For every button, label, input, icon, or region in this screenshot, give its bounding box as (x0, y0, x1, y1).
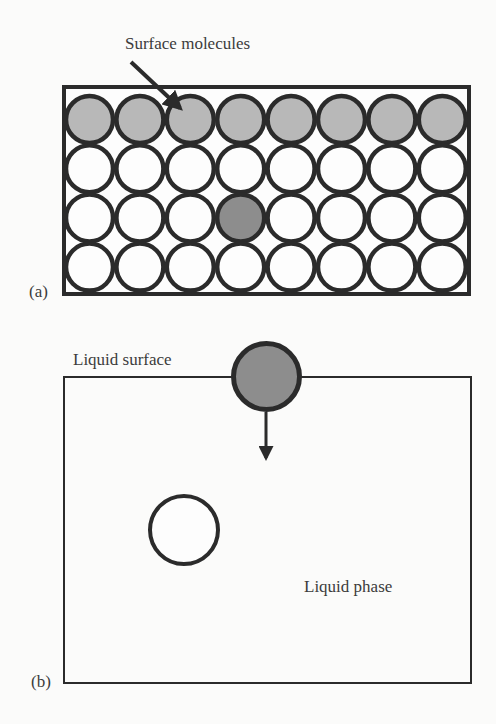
surface-molecule (66, 96, 113, 143)
molecule (116, 145, 163, 192)
panel-a-label: (a) (29, 283, 48, 300)
molecule (318, 145, 365, 192)
molecule (268, 194, 315, 241)
molecule (167, 145, 214, 192)
molecule (116, 194, 163, 241)
molecule (419, 244, 466, 291)
molecule (368, 145, 415, 192)
molecule (368, 244, 415, 291)
surface-molecule (116, 96, 163, 143)
bulk-highlighted-molecule (217, 194, 264, 241)
surface-molecule (368, 96, 415, 143)
molecule (268, 145, 315, 192)
surface-molecule (234, 344, 300, 410)
panel-b-label: (b) (31, 673, 51, 690)
surface-molecule (419, 96, 466, 143)
panel-b (64, 344, 471, 684)
molecule (167, 194, 214, 241)
liquid-surface-label: Liquid surface (73, 351, 172, 368)
molecule (318, 244, 365, 291)
molecule (217, 145, 264, 192)
molecule (268, 244, 315, 291)
surface-molecules-label: Surface molecules (125, 35, 250, 52)
molecule (66, 145, 113, 192)
surface-molecule (318, 96, 365, 143)
molecule (217, 244, 264, 291)
molecule (116, 244, 163, 291)
liquid-phase-label: Liquid phase (304, 578, 392, 595)
surface-molecule (268, 96, 315, 143)
molecule (419, 145, 466, 192)
molecule (66, 194, 113, 241)
surface-molecule (217, 96, 264, 143)
bulk-molecule (150, 496, 218, 564)
molecule (318, 194, 365, 241)
molecule (167, 244, 214, 291)
panel-a (64, 62, 469, 294)
molecule (66, 244, 113, 291)
molecule (368, 194, 415, 241)
molecule (419, 194, 466, 241)
